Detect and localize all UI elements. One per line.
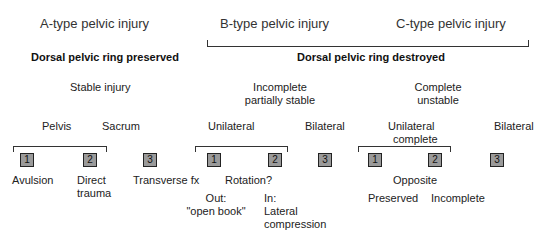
incomplete-label: Incomplete xyxy=(230,81,330,94)
c-complete-label: complete xyxy=(393,133,438,146)
preserved-label: Preserved xyxy=(368,192,418,205)
compression-label: compression xyxy=(264,218,326,231)
incomplete-opposite-label: Incomplete xyxy=(431,192,485,205)
c3-box: 3 xyxy=(490,153,504,167)
b-type-header: B-type pelvic injury xyxy=(220,17,329,30)
b2-box: 2 xyxy=(268,153,282,167)
transverse-fx-label: Transverse fx xyxy=(133,174,199,187)
in-label: In: xyxy=(264,192,276,205)
c1-box: 1 xyxy=(368,153,382,167)
opposite-label: Opposite xyxy=(393,174,437,187)
sacrum-label: Sacrum xyxy=(102,120,140,133)
dorsal-destroyed-bracket xyxy=(207,40,529,47)
lateral-label: Lateral xyxy=(264,205,298,218)
dorsal-destroyed-label: Dorsal pelvic ring destroyed xyxy=(297,51,445,64)
rotation-label: Rotation? xyxy=(225,174,272,187)
b-unilateral-label: Unilateral xyxy=(208,120,254,133)
direct-label: Direct xyxy=(77,174,106,187)
b3-box: 3 xyxy=(318,153,332,167)
b-bilateral-label: Bilateral xyxy=(305,120,345,133)
a2-box: 2 xyxy=(83,153,97,167)
open-book-label: "open book" xyxy=(186,205,246,218)
c-bilateral-label: Bilateral xyxy=(494,120,534,133)
complete-label: Complete xyxy=(388,81,488,94)
out-label: Out: xyxy=(186,192,246,205)
b1-box: 1 xyxy=(207,153,221,167)
c-unilateral-label: Unilateral xyxy=(388,120,434,133)
a1-box: 1 xyxy=(20,153,34,167)
dorsal-preserved-label: Dorsal pelvic ring preserved xyxy=(31,51,179,64)
pelvis-label: Pelvis xyxy=(42,120,71,133)
stable-injury-label: Stable injury xyxy=(70,81,131,94)
c-type-header: C-type pelvic injury xyxy=(396,17,506,30)
a-type-header: A-type pelvic injury xyxy=(40,17,149,30)
partially-stable-label: partially stable xyxy=(230,94,330,107)
unstable-label: unstable xyxy=(388,94,488,107)
b-unilateral-bracket xyxy=(195,146,288,152)
c2-box: 2 xyxy=(428,153,442,167)
avulsion-label: Avulsion xyxy=(12,174,53,187)
a-pelvis-bracket xyxy=(13,146,107,152)
a3-box: 3 xyxy=(143,153,157,167)
c-unilateral-bracket xyxy=(358,146,451,152)
trauma-label: trauma xyxy=(77,187,111,200)
